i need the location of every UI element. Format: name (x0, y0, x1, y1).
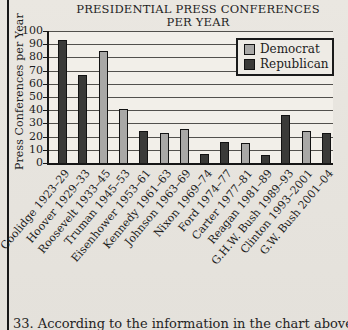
y-tick-mark-0 (43, 163, 48, 164)
legend-label-democrat: Democrat (260, 43, 320, 56)
democrat-swatch-icon (244, 44, 255, 55)
chart-title: PRESIDENTIAL PRESS CONFERENCES PER YEAR (52, 3, 344, 29)
bar-Ford 1974–77 (220, 142, 229, 163)
y-tick-label-20: 20 (11, 131, 43, 143)
page-border-line (7, 0, 9, 330)
legend-item-republican: Republican (244, 58, 328, 71)
legend: Democrat Republican (236, 38, 334, 76)
gridline-20 (49, 137, 333, 138)
y-tick-label-50: 50 (11, 91, 43, 103)
y-tick-mark-100 (43, 31, 48, 32)
bar-Johnson 1963–69 (180, 129, 189, 163)
y-tick-mark-80 (43, 57, 48, 58)
y-tick-label-30: 30 (11, 117, 43, 129)
bar-G.H.W. Bush 1989–93 (281, 115, 290, 163)
bar-Clinton 1993–2001 (302, 131, 311, 163)
gridline-30 (49, 123, 333, 124)
question-text: 33. According to the information in the … (13, 316, 348, 330)
republican-swatch-icon (244, 59, 255, 70)
y-tick-label-10: 10 (11, 144, 43, 156)
legend-label-republican: Republican (260, 58, 329, 71)
bar-Roosevelt 1933–45 (99, 51, 108, 163)
bar-Truman 1945–53 (119, 109, 128, 163)
bar-Coolidge 1923–29 (58, 40, 67, 163)
y-tick-mark-50 (43, 97, 48, 98)
y-tick-label-70: 70 (11, 65, 43, 77)
y-tick-label-0: 0 (11, 157, 43, 169)
y-tick-mark-60 (43, 84, 48, 85)
y-tick-label-40: 40 (11, 104, 43, 116)
gridline-60 (49, 84, 333, 85)
y-tick-mark-90 (43, 44, 48, 45)
gridline-40 (49, 110, 333, 111)
bar-Eisenhower 1953–61 (139, 131, 148, 163)
y-tick-mark-30 (43, 123, 48, 124)
bar-Hoover 1929–33 (78, 75, 87, 163)
y-tick-mark-40 (43, 110, 48, 111)
chart-title-line2: PER YEAR (52, 16, 344, 29)
y-tick-label-100: 100 (11, 25, 43, 37)
gridline-100 (49, 31, 333, 32)
gridline-10 (49, 150, 333, 151)
gridline-50 (49, 97, 333, 98)
bar-Carter 1977–81 (241, 143, 250, 163)
y-tick-label-80: 80 (11, 51, 43, 63)
bar-Kennedy 1961–63 (160, 133, 169, 163)
y-tick-mark-20 (43, 137, 48, 138)
bar-G.W. Bush 2001–04 (322, 133, 331, 163)
bar-Nixon 1969–74 (200, 154, 209, 163)
legend-item-democrat: Democrat (244, 43, 328, 56)
y-tick-label-90: 90 (11, 38, 43, 50)
bar-Reagan 1981–89 (261, 155, 270, 163)
y-tick-mark-70 (43, 71, 48, 72)
y-tick-label-60: 60 (11, 78, 43, 90)
y-tick-mark-10 (43, 150, 48, 151)
